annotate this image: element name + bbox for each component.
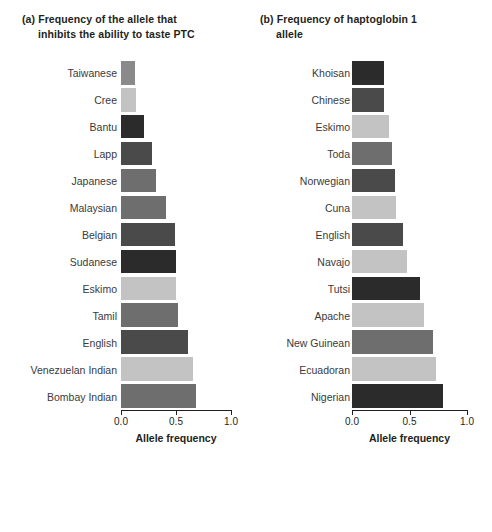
panel-b-title-line2: allele [260,27,475,42]
bar-row: Taiwanese [0,60,246,87]
panel-a-title-line1: (a) Frequency of the allele that [22,13,177,25]
bar [121,330,188,353]
panel-b-plot-area: KhoisanChineseEskimoTodaNorwegianCunaEng… [246,60,492,410]
bar-category-label: Navajo [317,256,350,268]
bar [352,250,407,273]
bar-category-label: Eskimo [316,121,350,133]
bar-category-label: Cree [94,94,117,106]
figure-two-bar-charts: (a) Frequency of the allele that inhibit… [0,0,492,532]
chart-panel-b: (b) Frequency of haptoglobin 1 allele Kh… [246,0,492,455]
bar-row: Ecuadoran [246,356,492,383]
bar [121,61,135,84]
bar [121,115,144,138]
x-tick-mark [352,410,353,415]
panel-a-x-axis-label: Allele frequency [135,432,216,444]
bar-row: Venezuelan Indian [0,356,246,383]
bar [121,223,175,246]
panel-a-title-line2: inhibits the ability to taste PTC [22,27,237,42]
chart-panel-a: (a) Frequency of the allele that inhibit… [0,0,246,455]
x-tick-mark [176,410,177,415]
bar-category-label: English [316,229,350,241]
bar-row: Toda [246,141,492,168]
bar-category-label: Eskimo [83,283,117,295]
bar-category-label: Bombay Indian [47,391,117,403]
bar-category-label: Tutsi [328,283,350,295]
bar [352,223,403,246]
bar [352,384,443,407]
bar-category-label: Apache [314,310,350,322]
bar [352,169,395,192]
bar-row: Eskimo [246,114,492,141]
bar [121,88,136,111]
x-tick-mark [121,410,122,415]
bar [121,142,152,165]
bar-category-label: Sudanese [70,256,117,268]
bar-row: New Guinean [246,329,492,356]
bar-row: Khoisan [246,60,492,87]
bar-category-label: Ecuadoran [299,364,350,376]
panel-a-title: (a) Frequency of the allele that inhibit… [22,12,237,42]
bar-category-label: Cuna [325,202,350,214]
x-tick-label: 1.0 [460,416,474,427]
bar [352,115,389,138]
bar [352,142,392,165]
bar-row: English [246,222,492,249]
bar [352,196,396,219]
x-tick-label: 1.0 [224,416,238,427]
bar-category-label: Belgian [82,229,117,241]
panel-b-title-line1: (b) Frequency of haptoglobin 1 [260,13,417,25]
bar-category-label: Tamil [92,310,117,322]
bar [121,303,178,326]
x-tick-label: 0.0 [114,416,128,427]
bar-row: Norwegian [246,168,492,195]
bar-category-label: Norwegian [300,175,350,187]
bar [352,61,384,84]
bar [121,357,193,380]
bar-row: Lapp [0,141,246,168]
bar-category-label: Lapp [94,148,117,160]
bar-category-label: Khoisan [312,67,350,79]
bar [352,330,433,353]
bar-category-label: Japanese [71,175,117,187]
bar [352,277,420,300]
bar-row: English [0,329,246,356]
bar-row: Tutsi [246,275,492,302]
bar-category-label: English [83,337,117,349]
x-tick-mark [467,410,468,415]
bar [352,88,384,111]
bar-category-label: Chinese [311,94,350,106]
bar-row: Malaysian [0,195,246,222]
bar [352,303,424,326]
bar-row: Japanese [0,168,246,195]
x-tick-label: 0.0 [345,416,359,427]
x-tick-mark [231,410,232,415]
bar [121,169,156,192]
bar-row: Belgian [0,222,246,249]
bar [121,384,196,407]
bar-row: Sudanese [0,248,246,275]
panel-b-title: (b) Frequency of haptoglobin 1 allele [260,12,475,42]
bar-row: Cuna [246,195,492,222]
bar-row: Bantu [0,114,246,141]
bar-row: Chinese [246,87,492,114]
bar-category-label: New Guinean [286,337,350,349]
x-tick-mark [410,410,411,415]
x-tick-label: 0.5 [403,416,417,427]
x-tick-label: 0.5 [169,416,183,427]
bar-category-label: Venezuelan Indian [31,364,117,376]
panel-b-x-axis-label: Allele frequency [369,432,450,444]
bar-category-label: Bantu [90,121,117,133]
bar-row: Nigerian [246,383,492,410]
bar-row: Eskimo [0,275,246,302]
bar [121,277,176,300]
bar-category-label: Taiwanese [67,67,117,79]
bar-category-label: Toda [327,148,350,160]
bar-row: Bombay Indian [0,383,246,410]
bar-category-label: Malaysian [70,202,117,214]
bar-row: Cree [0,87,246,114]
panel-a-plot-area: TaiwaneseCreeBantuLappJapaneseMalaysianB… [0,60,246,410]
bar-row: Navajo [246,248,492,275]
bar-category-label: Nigerian [311,391,350,403]
legend: Race category of population: BlackAsianP… [0,462,492,532]
bar-row: Apache [246,302,492,329]
